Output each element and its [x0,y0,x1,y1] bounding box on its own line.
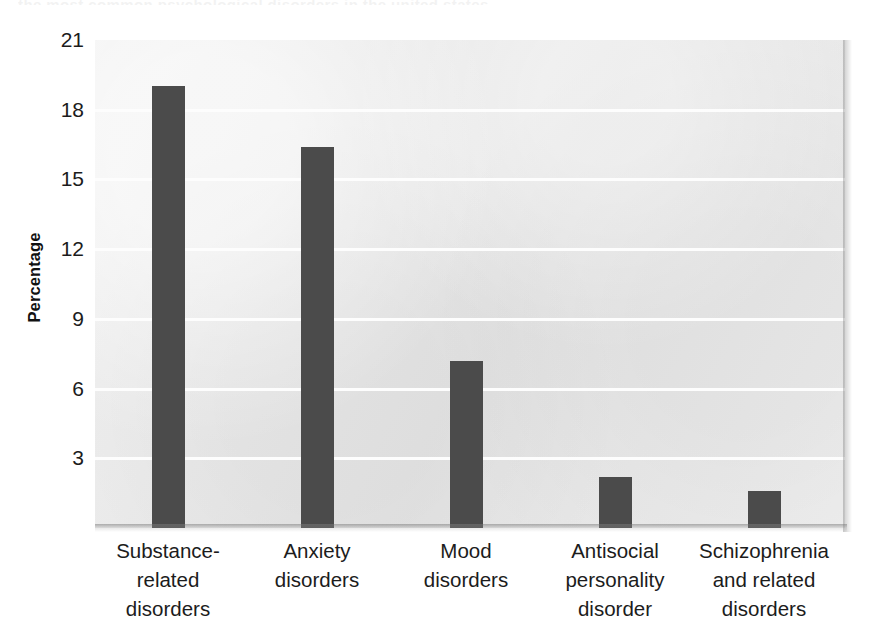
y-tick-label-21: 21 [38,29,84,50]
gridline-12 [95,248,845,251]
gridline-18 [95,109,845,112]
bar-4 [748,491,781,528]
x-tick-label-line: Schizophrenia [671,536,857,565]
bar-2 [450,361,483,528]
y-tick-label-15: 15 [38,168,84,189]
y-tick-label-6: 6 [38,378,84,399]
bar-3 [599,477,632,528]
plot-bottom-shadow [95,524,847,532]
x-tick-label-line: disorders [75,594,261,623]
y-tick-label-12: 12 [38,238,84,259]
x-axis-tick-labels: Substance-relateddisordersAnxietydisorde… [95,536,845,636]
plot-right-shadow [843,40,852,532]
y-tick-label-3: 3 [38,447,84,468]
gridline-15 [95,178,845,181]
plot-area [95,40,845,528]
gridline-9 [95,318,845,321]
y-tick-label-9: 9 [38,308,84,329]
bar-1 [301,147,334,528]
x-tick-label-4: Schizophreniaand relateddisorders [671,536,857,623]
bar-0 [152,86,185,528]
x-tick-label-line: and related [671,565,857,594]
x-tick-label-line: disorders [671,594,857,623]
bar-chart-figure: Percentage 21181512963 Substance-related… [0,0,872,637]
y-tick-label-18: 18 [38,99,84,120]
